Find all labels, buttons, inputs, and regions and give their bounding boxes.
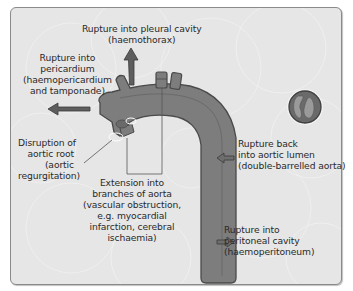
label-line: Disruption of <box>18 137 74 148</box>
label-line: Rupture into pleural cavity <box>82 23 201 34</box>
label-rupture-back-lumen: Rupture back into aortic lumen (double-b… <box>238 138 345 171</box>
label-line: branches of aorta <box>82 188 182 199</box>
label-line: and tamponade) <box>23 85 112 96</box>
label-line: ischaemia) <box>82 232 182 243</box>
label-line: infarction, cerebral <box>82 221 182 232</box>
label-aortic-root: Disruption of aortic root (aortic regurg… <box>18 137 74 181</box>
label-extension-branches: Extension into branches of aorta (vascul… <box>82 177 182 243</box>
label-line: aortic root <box>18 148 74 159</box>
label-line: Rupture into <box>224 224 314 235</box>
label-line: regurgitation) <box>18 170 74 181</box>
label-line: (haemopericardium <box>23 74 112 85</box>
label-line: into aortic lumen <box>238 149 345 160</box>
label-line: Rupture back <box>238 138 345 149</box>
label-line: pericardium <box>23 63 112 74</box>
label-line: Extension into <box>82 177 182 188</box>
label-line: Rupture into <box>23 52 112 63</box>
label-line: (aortic <box>18 159 74 170</box>
label-rupture-pleural: Rupture into pleural cavity (haemothorax… <box>82 23 201 45</box>
label-rupture-peritoneal: Rupture into peritoneal cavity (haemoper… <box>224 224 314 257</box>
label-rupture-pericardium: Rupture into pericardium (haemopericardi… <box>23 52 112 96</box>
label-line: (haemoperitoneum) <box>224 246 314 257</box>
label-line: peritoneal cavity <box>224 235 314 246</box>
label-line: (double-barrelled aorta) <box>238 160 345 171</box>
arrow-left-pericardium-icon <box>48 103 90 115</box>
label-line: e.g. myocardial <box>82 210 182 221</box>
label-line: (haemothorax) <box>82 34 201 45</box>
label-line: (vascular obstruction, <box>82 199 182 210</box>
cross-section-icon <box>287 89 323 125</box>
